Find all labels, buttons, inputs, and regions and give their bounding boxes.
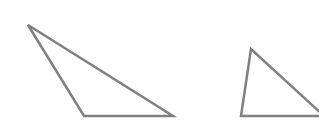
triangles-diagram xyxy=(0,0,319,129)
triangle-right xyxy=(241,49,319,116)
triangle-left xyxy=(28,25,173,116)
